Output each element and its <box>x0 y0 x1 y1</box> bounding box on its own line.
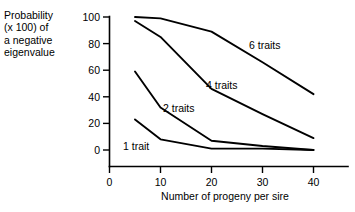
series-annotation-1-trait: 1 trait <box>123 140 149 152</box>
x-tick-label-0: 0 <box>107 176 113 188</box>
x-tick-label-40: 40 <box>308 176 320 188</box>
series-annotation-4-traits: 4 traits <box>206 79 238 91</box>
y-tick-label-100: 100 <box>82 11 100 23</box>
y-tick-label-40: 40 <box>88 91 100 103</box>
y-tick-label-60: 60 <box>88 64 100 76</box>
y-tick-label-20: 20 <box>88 117 100 129</box>
series-annotation-6-traits: 6 traits <box>249 39 281 51</box>
series-line-1-trait <box>135 119 314 150</box>
x-tick-label-20: 20 <box>206 176 218 188</box>
y-tick-label-0: 0 <box>94 144 100 156</box>
x-axis-title: Number of progeny per sire <box>110 190 340 202</box>
y-tick-label-80: 80 <box>88 38 100 50</box>
chart-figure: Probability (x 100) of a negative eigenv… <box>0 0 355 212</box>
x-tick-label-10: 10 <box>155 176 167 188</box>
x-tick-label-30: 30 <box>257 176 269 188</box>
series-annotation-2-traits: 2 traits <box>163 102 195 114</box>
plot-area: 100 80 60 40 20 0 0 10 20 30 40 6 traits… <box>0 0 355 212</box>
